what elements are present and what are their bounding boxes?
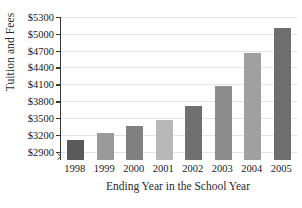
x-tick-label-2002: 2002: [178, 163, 208, 174]
bar-2002: [185, 106, 202, 160]
bar-2004: [244, 53, 261, 160]
bar-2000: [126, 126, 143, 160]
bar-slot: [238, 17, 268, 160]
bar-1999: [97, 133, 114, 160]
y-tick-label: $3500: [28, 112, 54, 123]
bar-chart-figure: Tuition and Fees $2900$3200$3500$3800$41…: [0, 0, 302, 208]
x-tick-label-2003: 2003: [208, 163, 238, 174]
bar-2003: [215, 86, 232, 160]
x-tick-label-2000: 2000: [119, 163, 149, 174]
x-tick-label-2004: 2004: [237, 163, 267, 174]
bar-2005: [274, 28, 291, 160]
bar-1998: [67, 140, 84, 160]
bar-slot: [120, 17, 150, 160]
y-tick-label: $4100: [28, 79, 54, 90]
x-axis-title: Ending Year in the School Year: [60, 180, 296, 192]
bar-slot: [268, 17, 298, 160]
x-tick-label-2005: 2005: [267, 163, 297, 174]
y-tick-label: $3800: [28, 96, 54, 107]
x-tick-label-2001: 2001: [149, 163, 179, 174]
y-tick-label: $3200: [28, 129, 54, 140]
bar-2001: [156, 120, 173, 160]
bar-slot: [91, 17, 121, 160]
x-tick-label-1998: 1998: [60, 163, 90, 174]
y-axis-title: Tuition and Fees: [4, 0, 16, 112]
bar-slot: [61, 17, 91, 160]
y-tick-label: $2900: [28, 146, 54, 157]
y-tick-label: $5300: [28, 12, 54, 23]
bar-slot: [209, 17, 239, 160]
bar-slot: [179, 17, 209, 160]
y-tick-label: $4700: [28, 45, 54, 56]
y-tick-label: $5000: [28, 28, 54, 39]
clipped-title-remnant: [150, 0, 270, 2]
bars-group: [61, 17, 297, 160]
bar-slot: [150, 17, 180, 160]
x-tick-label-1999: 1999: [90, 163, 120, 174]
plot-area: $2900$3200$3500$3800$4100$4400$4700$5000…: [60, 17, 296, 160]
x-axis-ticks-group: 19981999200020012002200320042005: [60, 163, 296, 174]
y-tick-label: $4400: [28, 62, 54, 73]
